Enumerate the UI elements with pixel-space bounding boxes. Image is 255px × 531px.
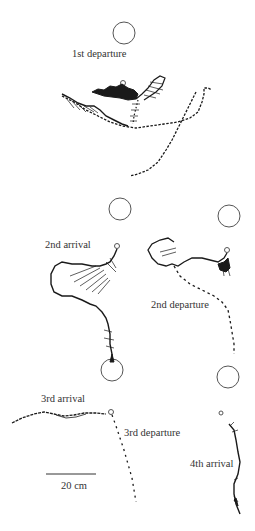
start-marker-5 (219, 411, 223, 415)
trajectory-3rd-arrival (12, 412, 106, 423)
start-marker-3 (225, 248, 230, 253)
target-circle-5 (217, 366, 239, 388)
trajectory-2nd-arrival (51, 249, 117, 362)
label-2nd-arrival: 2nd arrival (45, 240, 91, 251)
scale-bar-label: 20 cm (61, 481, 87, 492)
label-3rd-arrival: 3rd arrival (41, 394, 85, 405)
label-4th-arrival: 4th arrival (190, 459, 233, 470)
label-2nd-departure: 2nd departure (151, 300, 209, 311)
target-circle-3 (218, 205, 240, 227)
start-marker-2 (115, 244, 120, 249)
trajectory-1st-departure (62, 76, 212, 176)
start-marker-4 (109, 410, 114, 415)
label-3rd-departure: 3rd departure (124, 428, 180, 439)
target-circle-2 (109, 198, 131, 220)
label-1st-departure: 1st departure (72, 49, 127, 60)
target-circle-1 (113, 22, 135, 44)
trajectory-2nd-departure (148, 238, 234, 354)
figure-trajectories (0, 0, 255, 531)
